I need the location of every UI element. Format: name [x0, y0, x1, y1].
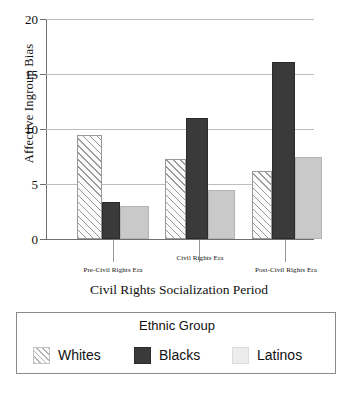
chart-figure: 20 15 10 5 0 Affective Ingroup Bias	[0, 0, 358, 393]
legend-label-whites: Whites	[58, 347, 101, 363]
legend: Ethnic Group Whites Blacks Latinos	[16, 312, 336, 374]
legend-swatch-blacks-icon	[134, 347, 151, 364]
bar-blacks-post-civil-rights-era	[272, 62, 295, 239]
bar-whites-pre-civil-rights-era	[77, 135, 102, 240]
gridline-20	[46, 19, 314, 20]
x-axis-line	[46, 239, 314, 240]
legend-entry-whites: Whites	[33, 343, 101, 367]
x-tick-mark-post-civil-rights-era	[285, 240, 286, 262]
legend-label-blacks: Blacks	[159, 347, 200, 363]
bar-latinos-civil-rights-era	[208, 190, 235, 240]
legend-entry-latinos: Latinos	[232, 343, 302, 367]
bar-whites-civil-rights-era	[165, 159, 186, 239]
x-tick-mark-pre-civil-rights-era	[113, 240, 114, 262]
x-tick-label-civil-rights-era: Civil Rights Era	[150, 254, 250, 262]
y-axis-title: Affective Ingroup Bias	[22, 19, 37, 189]
legend-swatch-latinos-icon	[232, 347, 249, 364]
plot-area	[46, 19, 314, 239]
x-tick-label-post-civil-rights-era: Post-Civil Rights Era	[231, 266, 341, 274]
y-tick-label-0: 0	[2, 233, 38, 246]
legend-entry-blacks: Blacks	[134, 343, 200, 367]
legend-title: Ethnic Group	[17, 318, 337, 333]
x-axis-title: Civil Rights Socialization Period	[0, 282, 358, 298]
x-tick-label-pre-civil-rights-era: Pre-Civil Rights Era	[58, 266, 168, 274]
legend-swatch-whites-icon	[33, 347, 50, 364]
bar-whites-post-civil-rights-era	[252, 171, 272, 239]
bar-latinos-pre-civil-rights-era	[120, 206, 149, 239]
bar-latinos-post-civil-rights-era	[295, 157, 322, 240]
legend-label-latinos: Latinos	[257, 347, 302, 363]
bar-blacks-civil-rights-era	[186, 118, 208, 239]
bar-blacks-pre-civil-rights-era	[102, 202, 120, 239]
